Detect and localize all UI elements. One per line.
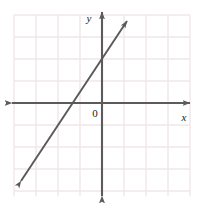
origin-label: 0	[92, 107, 98, 119]
x-axis-label: x	[181, 111, 187, 123]
graph-canvas: y x 0	[0, 0, 199, 207]
coordinate-plane-figure: y x 0	[0, 0, 199, 207]
y-axis-label: y	[86, 12, 92, 24]
